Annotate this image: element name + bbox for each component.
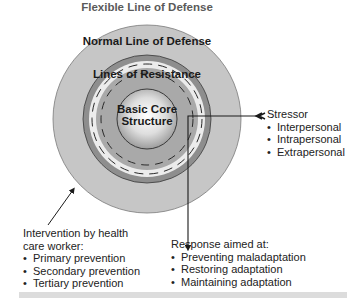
- core-label-line2: Structure: [112, 115, 182, 127]
- stressor-chevron-icon: [256, 113, 265, 119]
- intervention-item: Tertiary prevention: [23, 277, 140, 290]
- response-list: Preventing maladaptation Restoring adapt…: [171, 251, 306, 289]
- response-legend: Response aimed at: Preventing maladaptat…: [171, 238, 306, 288]
- stressor-list: Interpersonal Intrapersonal Extrapersona…: [267, 121, 345, 159]
- response-item: Restoring adaptation: [171, 263, 306, 276]
- response-item: Maintaining adaptation: [171, 276, 306, 289]
- intervention-arrow-line: [48, 190, 73, 225]
- intervention-heading-line2: care worker:: [23, 240, 140, 253]
- intervention-heading-line1: Intervention by health: [23, 227, 140, 240]
- bottom-divider-bar: [19, 292, 347, 298]
- stressor-item: Extrapersonal: [267, 146, 345, 159]
- lines-of-resistance-label: Lines of Resistance: [0, 68, 294, 80]
- intervention-list: Primary prevention Secondary prevention …: [23, 252, 140, 290]
- intervention-item: Secondary prevention: [23, 265, 140, 278]
- flexible-line-of-defense-label: Flexible Line of Defense: [0, 1, 294, 13]
- stressor-legend: Stressor Interpersonal Intrapersonal Ext…: [267, 108, 345, 158]
- response-item: Preventing maladaptation: [171, 251, 306, 264]
- response-heading: Response aimed at:: [171, 238, 306, 251]
- intervention-legend: Intervention by health care worker: Prim…: [23, 227, 140, 290]
- core-label-line1: Basic Core: [112, 103, 182, 115]
- intervention-item: Primary prevention: [23, 252, 140, 265]
- stressor-item: Intrapersonal: [267, 133, 345, 146]
- stressor-heading: Stressor: [267, 108, 345, 121]
- stressor-item: Interpersonal: [267, 121, 345, 134]
- neuman-systems-model-diagram: Flexible Line of Defense Normal Line of …: [0, 0, 347, 298]
- normal-line-of-defense-label: Normal Line of Defense: [0, 35, 294, 47]
- basic-core-structure-label: Basic Core Structure: [112, 103, 182, 127]
